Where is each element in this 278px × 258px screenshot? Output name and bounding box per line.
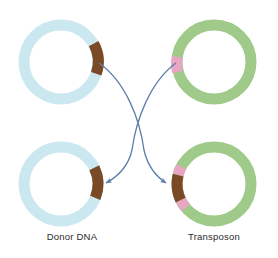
- donor-dna-label: Donor DNA: [47, 231, 98, 242]
- flanking-repeat-lower-segment: [181, 200, 186, 208]
- plasmid-backbone: [177, 147, 251, 221]
- transfer-arrow-left-to-right: [99, 63, 166, 183]
- transposon-plasmid-top: [177, 25, 251, 99]
- transposon-element-segment: [177, 57, 178, 72]
- donor-dna-plasmid-top: [24, 25, 98, 99]
- plasmid-backbone: [177, 25, 251, 99]
- plasmid-backbone: [24, 147, 98, 221]
- transposon-plasmid-bottom: [177, 147, 251, 221]
- transposon-label: Transposon: [188, 231, 240, 242]
- transposition-diagram: Donor DNA Transposon: [0, 0, 278, 258]
- insertion-site-segment: [94, 168, 98, 198]
- transfer-arrow-right-to-left: [106, 63, 176, 183]
- transposed-element-segment: [177, 175, 181, 200]
- flanking-repeat-upper-segment: [178, 167, 181, 175]
- plasmid-backbone: [24, 25, 98, 99]
- diagram-canvas: Donor DNA Transposon: [0, 0, 278, 258]
- donor-dna-plasmid-bottom: [24, 147, 98, 221]
- insertion-site-segment: [94, 44, 99, 74]
- transfer-arrows: [99, 63, 176, 183]
